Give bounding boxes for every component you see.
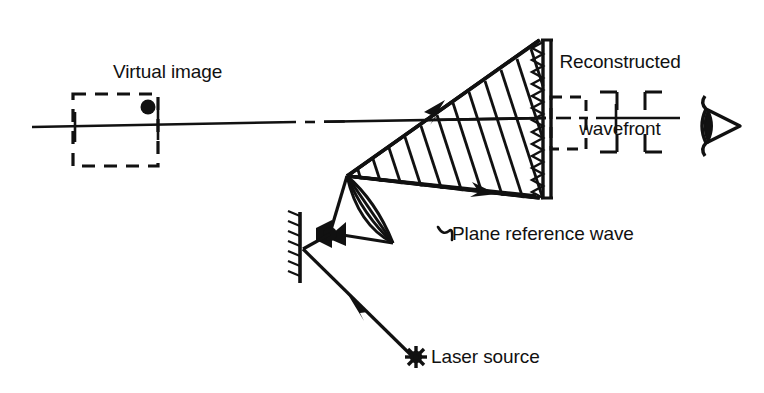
label-reconstructed-wavefront-line2: wavefront (530, 118, 710, 140)
label-virtual-image: Virtual image (113, 61, 222, 83)
label-reconstructed-wavefront-line1: Reconstructed (530, 51, 710, 73)
label-plane-reference-wave: Plane reference wave (452, 223, 634, 245)
mirror-icon (288, 211, 300, 283)
laser-beam-arrow (347, 293, 368, 321)
label-reconstructed-wavefront: Reconstructed wavefront (530, 6, 710, 185)
virtual-image-point (141, 100, 156, 115)
label-laser-source: Laser source (431, 346, 540, 368)
holography-diagram: Reconstructed wavefront Virtual image Pl… (0, 0, 764, 393)
starburst-icon (405, 346, 427, 368)
